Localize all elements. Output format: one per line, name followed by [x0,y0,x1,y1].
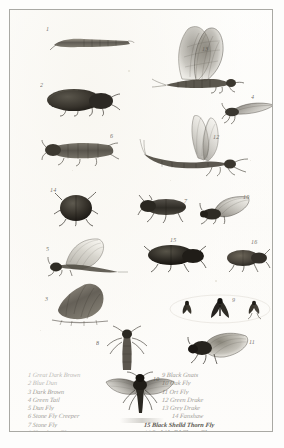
specimen-blue-dun-beetle [44,86,120,116]
specimen-great-dark-brown-larva [50,32,134,54]
specimen-number-8: 8 [96,340,99,346]
specimen-stone-fly-creeper [42,138,120,166]
specimen-ort-fly [188,330,254,364]
specimen-black-gnats [168,292,272,326]
key-item-12: 12Green Drake [162,396,215,404]
specimen-number-1: 1 [46,26,49,32]
specimen-number-15: 15 [170,237,176,243]
engraved-plate: 1 [0,0,284,448]
specimen-black-shelld-thorn-fly [144,242,206,272]
key-item-11: 11Ort Fly [162,388,215,396]
specimen-dark-brown-larva [50,282,122,326]
specimen-number-3: 3 [45,296,48,302]
key-right-column: 9Black Gnats 10Oak Fly 11Ort Fly 12Green… [162,371,214,432]
key-item-7: 7Stone Fly [28,421,81,429]
specimen-grey-drake-mayfly [152,23,244,93]
paper-speck [170,180,171,181]
key-left-column: 1Great Dark Brown 2Blue Dun 3Dark Brown … [28,371,81,432]
paper-speck [40,330,41,331]
key-item-15: 15Black Shelld Thorn Fly [144,421,215,429]
paper-speck [72,170,73,171]
paper-speck [128,70,130,72]
specimen-number-14: 14 [50,187,56,193]
specimen-fanshaw-beetle [54,192,98,226]
key-item-16: 16Red Shelld Thorn Fly [144,429,215,432]
specimen-number-4: 4 [251,94,254,100]
key-item-4: 4Green Tail [28,396,81,404]
specimen-dun-fly [48,238,128,276]
paper-speck [250,160,251,161]
specimen-red-shelld-thorn-fly [224,246,270,272]
key-item-6: 6Stone Fly Creeper [28,412,81,420]
specimen-number-16: 16 [251,239,257,245]
key-item-10: 10Oak Fly [162,379,215,387]
specimen-number-7: 7 [184,198,187,204]
specimen-number-9: 9 [232,297,235,303]
specimen-number-5: 5 [46,246,49,252]
specimen-number-11: 11 [249,339,255,345]
key-item-3: 3Dark Brown [28,388,81,396]
specimen-stone-fly [138,195,190,223]
specimen-number-13: 13 [202,46,208,52]
specimen-key: 1Great Dark Brown 2Blue Dun 3Dark Brown … [20,365,268,432]
plate-frame: 1 [9,9,273,432]
paper-speck [215,280,217,282]
specimen-number-10: 10 [243,194,249,200]
specimen-hawthorn-fly [106,326,150,370]
key-item-8: 8Hawthorn Flee [28,429,81,432]
specimen-number-2: 2 [40,82,43,88]
key-item-14: 14Fanshaw [162,412,215,420]
specimen-number-6: 6 [110,133,113,139]
key-item-2: 2Blue Dun [28,379,81,387]
specimen-number-12: 12 [213,134,219,140]
specimen-green-drake-mayfly [140,114,248,176]
